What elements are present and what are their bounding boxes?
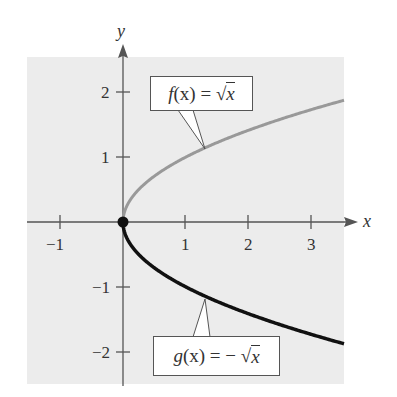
y-tick-label: 1 xyxy=(101,149,110,166)
g-label-box: g(x) = − √x xyxy=(153,336,280,376)
x-axis-arrow-icon xyxy=(344,217,358,227)
x-tick-label: 3 xyxy=(307,236,316,253)
y-tick-label: −1 xyxy=(92,279,110,296)
y-tick-label: 2 xyxy=(101,84,110,101)
y-axis-arrow-icon xyxy=(118,44,128,58)
f-label-box: f(x) = √x xyxy=(150,76,253,111)
g-label-text: (x) = − xyxy=(183,345,241,367)
sqrt-icon: √ xyxy=(241,345,251,367)
g-label-name: g xyxy=(173,345,183,367)
y-axis-label: y xyxy=(117,22,125,40)
f-label-radicand: x xyxy=(226,82,234,105)
f-label-text: (x) = xyxy=(174,83,216,105)
y-tick-label: −2 xyxy=(92,344,110,361)
x-tick-label: 1 xyxy=(181,236,190,253)
sqrt-icon: √ xyxy=(216,83,226,105)
x-tick-label: 2 xyxy=(244,236,253,253)
x-tick-label: −1 xyxy=(46,236,64,253)
origin-point xyxy=(118,217,129,228)
x-axis-label: x xyxy=(363,212,371,230)
g-label-radicand: x xyxy=(251,345,259,368)
